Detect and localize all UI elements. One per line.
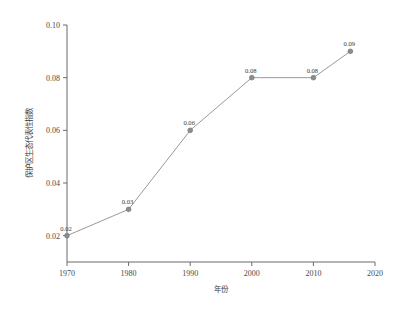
x-tick-label: 1990 (182, 269, 198, 278)
y-tick-label: 0.04 (46, 179, 60, 188)
x-tick-label: 1970 (59, 269, 75, 278)
x-axis-title: 年份 (214, 284, 229, 294)
data-point-marker (65, 233, 70, 238)
y-tick-label: 0.08 (46, 74, 60, 83)
y-tick-label: 0.06 (46, 126, 60, 135)
line-chart-canvas: 0.020.040.060.080.10 1970198019902000201… (0, 0, 394, 309)
x-tick-label: 2000 (244, 269, 260, 278)
chart-figure: 0.020.040.060.080.10 1970198019902000201… (0, 0, 394, 309)
figure-background (0, 0, 394, 309)
data-point-marker (348, 49, 353, 54)
data-point-value-label: 0.02 (60, 225, 72, 232)
x-tick-label: 2010 (305, 269, 321, 278)
data-point-marker (311, 75, 316, 80)
data-point-value-label: 0.06 (183, 119, 195, 126)
y-tick-label: 0.02 (46, 232, 60, 241)
data-point-marker (126, 207, 131, 212)
data-point-value-label: 0.09 (344, 40, 356, 47)
data-point-value-label: 0.08 (245, 67, 257, 74)
x-tick-label: 1980 (121, 269, 137, 278)
data-point-marker (188, 128, 193, 133)
data-point-value-label: 0.03 (122, 198, 134, 205)
y-axis-title: 保护区生态代表性指数 (24, 107, 34, 178)
data-point-value-label: 0.08 (307, 67, 319, 74)
data-point-marker (249, 75, 254, 80)
y-tick-label: 0.10 (46, 21, 60, 30)
x-tick-label: 2020 (367, 269, 383, 278)
